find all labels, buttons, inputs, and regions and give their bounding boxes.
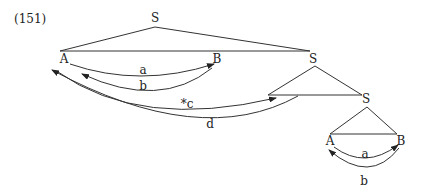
arc-label-a-low: a [361, 148, 368, 160]
tree-diagram [0, 0, 421, 193]
node-a-top: A [60, 53, 69, 65]
node-s-root: S [151, 12, 159, 24]
node-s-low: S [362, 93, 370, 105]
arc-label-a-top: a [139, 64, 146, 76]
mid-triangle [268, 66, 362, 95]
node-s-mid: S [309, 53, 317, 65]
arc-label-b-top: b [139, 80, 147, 92]
arc-label-d: d [206, 118, 214, 130]
node-a-low: A [326, 135, 335, 147]
node-b-low: B [397, 135, 406, 147]
low-triangle [330, 107, 397, 134]
root-triangle [60, 27, 310, 51]
arc-label-b-low: b [360, 175, 368, 187]
node-b-top: B [213, 53, 222, 65]
arc-label-c: *c [181, 98, 194, 110]
